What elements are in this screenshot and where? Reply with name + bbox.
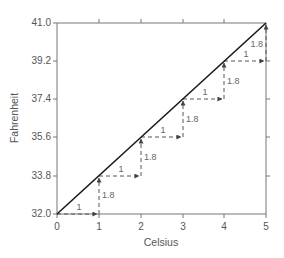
- run-label: 1: [160, 125, 165, 135]
- rise-label: 1.8: [186, 114, 199, 124]
- y-tick-label: 39.2: [32, 55, 52, 66]
- x-tick-label: 4: [221, 221, 227, 232]
- x-tick-label: 0: [54, 221, 60, 232]
- x-tick-labels: 0 1 2 3 4 5: [54, 221, 269, 232]
- y-tick-label: 35.6: [32, 131, 52, 142]
- x-tick-label: 5: [263, 221, 269, 232]
- y-tick-labels: 32.0 33.8 35.6 37.4 39.2 41.0: [32, 17, 52, 219]
- y-axis-label: Fahrenheit: [8, 93, 20, 143]
- conversion-line: [57, 23, 266, 214]
- chart: 0 1 2 3 4 5 32.0 33.8 35.6 37.4 39.2 41.…: [0, 0, 284, 258]
- y-tick-label: 41.0: [32, 17, 52, 28]
- run-label: 1: [118, 164, 123, 174]
- rise-label: 1.8: [144, 152, 157, 162]
- x-tick-label: 3: [180, 221, 186, 232]
- x-axis-label: Celsius: [144, 236, 178, 248]
- y-tick-label: 32.0: [32, 208, 52, 219]
- rise-label: 1.8: [227, 76, 240, 86]
- rise-label: 1.8: [250, 39, 263, 49]
- rise-label: 1.8: [102, 190, 115, 200]
- y-tick-label: 33.8: [32, 170, 52, 181]
- y-tick-label: 37.4: [32, 93, 52, 104]
- run-label: 1: [202, 87, 207, 97]
- run-label: 1: [243, 49, 248, 59]
- step-labels: 1 1.8 1 1.8 1 1.8 1 1.8 1 1.8: [76, 39, 263, 212]
- x-tick-label: 2: [138, 221, 144, 232]
- x-tick-label: 1: [96, 221, 102, 232]
- run-label: 1: [76, 202, 81, 212]
